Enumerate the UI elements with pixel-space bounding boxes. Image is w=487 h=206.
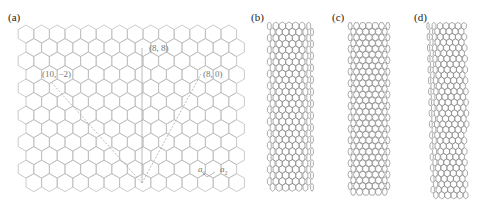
nanotube-d (427, 22, 469, 198)
vector-label-armchair: (8, 8) (149, 43, 169, 53)
basis-label-a2: a2 (220, 164, 228, 176)
panel-d-label: (d) (414, 11, 427, 23)
nanotube-c (348, 23, 390, 195)
vector-label-chiral: (10, −2) (42, 69, 71, 79)
panel-a-label: (a) (8, 11, 20, 23)
panel-c-label: (c) (332, 11, 344, 23)
panel-b-label: (b) (251, 11, 264, 23)
nanotube-b (267, 22, 313, 191)
vector-label-zigzag: (8, 0) (203, 69, 223, 79)
basis-label-a1: a1 (198, 164, 206, 176)
nanotube-renderings (0, 0, 487, 206)
